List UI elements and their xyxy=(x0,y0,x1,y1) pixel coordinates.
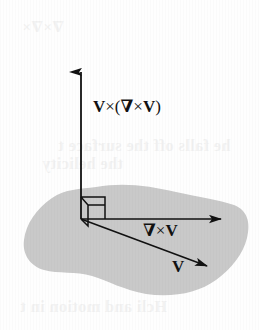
label-v-bold-1: V xyxy=(93,97,105,116)
label-v-bold-4: V xyxy=(172,257,184,276)
label-v-bold-3: V xyxy=(165,221,177,240)
label-nabla-2: ∇ xyxy=(143,221,156,240)
label-v-bold-2: V xyxy=(143,97,155,116)
label-times-2: × xyxy=(133,97,143,116)
label-times-paren-open: ×( xyxy=(105,97,120,116)
label-paren-close: ) xyxy=(155,97,161,116)
label-v: V xyxy=(172,258,184,275)
label-times-3: × xyxy=(156,221,166,240)
vector-diagram-figure: ∇×∇× he falls off the surface t the heli… xyxy=(0,0,259,330)
label-v-cross-curl-v: V×(∇×V) xyxy=(93,98,161,115)
label-curl-v: ∇×V xyxy=(143,222,178,239)
vector-diagram-canvas xyxy=(0,0,259,330)
label-nabla-1: ∇ xyxy=(121,97,134,116)
